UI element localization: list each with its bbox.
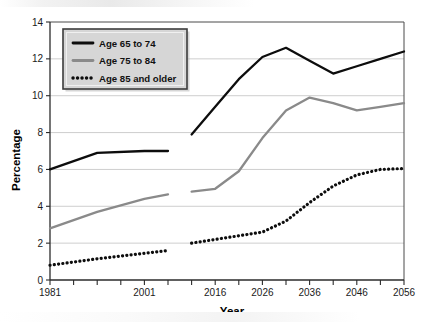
- x-tick-label: 2046: [346, 287, 369, 298]
- legend-label-0: Age 65 to 74: [99, 38, 156, 49]
- scan-artifact-top: [0, 0, 423, 7]
- legend-label-1: Age 75 to 84: [99, 55, 156, 66]
- x-tick-label: 2026: [251, 287, 274, 298]
- y-tick-label: 0: [37, 275, 43, 286]
- y-tick-labels-group: 02468101214: [32, 17, 44, 286]
- chart-legend: Age 65 to 74Age 75 to 84Age 85 and older: [63, 29, 190, 92]
- y-tick-label: 14: [32, 17, 44, 28]
- x-tick-labels-group: 1981200120162026203620462056: [39, 287, 416, 298]
- y-tick-label: 8: [37, 127, 43, 138]
- x-tick-label: 1981: [39, 287, 62, 298]
- x-tick-label: 2036: [298, 287, 321, 298]
- y-tick-label: 4: [37, 201, 43, 212]
- y-axis-title: Percentage: [10, 129, 22, 191]
- legend-label-2: Age 85 and older: [99, 73, 177, 84]
- x-tick-label: 2001: [133, 287, 156, 298]
- scan-artifact-bottom: [0, 312, 423, 322]
- line-chart: 02468101214 1981200120162026203620462056…: [0, 0, 423, 322]
- x-tick-label: 2056: [393, 287, 416, 298]
- y-tick-label: 2: [37, 238, 43, 249]
- y-tick-label: 10: [32, 90, 44, 101]
- chart-page: 02468101214 1981200120162026203620462056…: [0, 0, 423, 322]
- x-tick-label: 2016: [204, 287, 227, 298]
- y-tick-label: 12: [32, 53, 44, 64]
- y-tick-label: 6: [37, 164, 43, 175]
